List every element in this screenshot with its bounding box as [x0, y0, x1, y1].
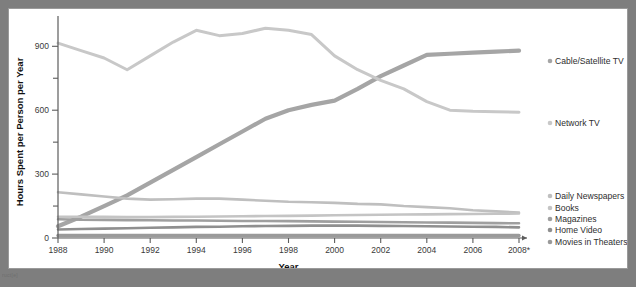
x-tick-label: 1992 — [141, 245, 160, 255]
legend: Cable/Satellite TVNetwork TVDaily Newspa… — [548, 56, 627, 247]
y-tick-label: 900 — [35, 41, 49, 51]
x-tick-label: 1998 — [279, 245, 298, 255]
y-tick-label: 600 — [35, 105, 49, 115]
series-line-0 — [58, 51, 519, 227]
x-tick-label: 2004 — [417, 245, 436, 255]
legend-label-6: Movies in Theaters — [555, 237, 627, 247]
x-tick-label: 1990 — [95, 245, 114, 255]
series-line-5 — [58, 226, 519, 230]
x-tick-label: 1994 — [187, 245, 206, 255]
chart-screenshot: 0300600900198819901992199419961998200020… — [0, 0, 636, 287]
legend-marker-4 — [548, 217, 553, 222]
legend-label-1: Network TV — [555, 118, 600, 128]
axes-layer — [58, 16, 527, 240]
footer-watermark: ruct[e] — [2, 272, 18, 278]
x-axis-title: Year — [278, 261, 298, 268]
legend-marker-3 — [548, 206, 553, 211]
chart-plate: 0300600900198819901992199419961998200020… — [9, 9, 627, 268]
x-tick-label: 2002 — [371, 245, 390, 255]
legend-marker-0 — [548, 59, 553, 64]
legend-marker-2 — [548, 194, 553, 199]
series-line-1 — [58, 28, 519, 112]
legend-label-3: Books — [555, 203, 579, 213]
x-tick-label: 2008* — [508, 245, 531, 255]
series-line-4 — [58, 219, 519, 223]
y-tick-label: 300 — [35, 169, 49, 179]
x-axis-arrow — [522, 236, 527, 241]
y-axis-title: Hours Spent per Person per Year — [14, 57, 25, 206]
x-tick-label: 1988 — [49, 245, 68, 255]
legend-marker-1 — [548, 121, 553, 126]
x-tick-label: 2000 — [325, 245, 344, 255]
x-tick-label: 1996 — [233, 245, 252, 255]
y-tick-label: 0 — [44, 233, 49, 243]
series-layer — [58, 28, 519, 235]
line-chart: 0300600900198819901992199419961998200020… — [9, 9, 627, 268]
legend-marker-6 — [548, 240, 553, 245]
legend-label-2: Daily Newspapers — [555, 191, 624, 201]
legend-label-5: Home Video — [555, 225, 602, 235]
legend-label-4: Magazines — [555, 214, 597, 224]
x-tick-label: 2006 — [463, 245, 482, 255]
legend-marker-5 — [548, 228, 553, 233]
series-line-3 — [58, 214, 519, 218]
legend-label-0: Cable/Satellite TV — [555, 56, 624, 66]
